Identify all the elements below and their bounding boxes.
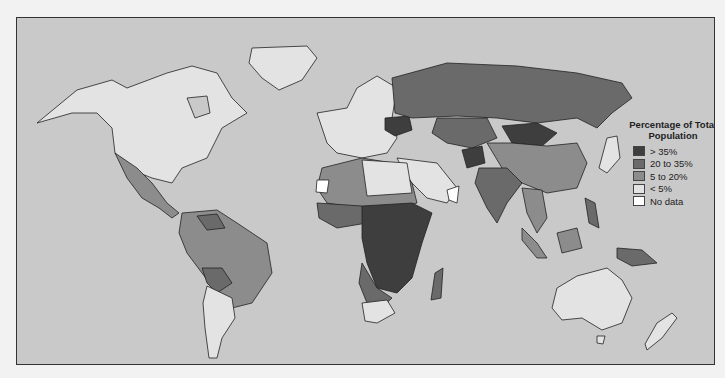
world-map [17,18,715,365]
region-mongolia [502,123,557,146]
region-japan [599,136,620,173]
legend-title-line2: Population [623,130,715,141]
legend-item-20-35: 20 to 35% [633,158,715,171]
region-west-africa [317,203,367,228]
legend-label: < 5% [650,183,672,194]
region-australia [552,268,632,330]
region-indonesia-borneo [557,228,582,253]
legend-label: > 35% [650,146,677,157]
legend-label: 20 to 35% [650,158,693,169]
legend-item-lt5: < 5% [633,183,715,196]
map-legend: Percentage of Total Population > 35% 20 … [623,119,715,208]
legend-item-gt35: > 35% [633,145,715,158]
region-egypt-libya [362,160,412,196]
region-southeast-asia [522,188,547,233]
legend-item-5-20: 5 to 20% [633,170,715,183]
region-russia [392,63,632,128]
legend-title: Percentage of Total Population [623,119,715,141]
region-tasmania [597,336,605,344]
map-frame: Percentage of Total Population > 35% 20 … [16,17,715,365]
legend-label: 5 to 20% [650,171,688,182]
region-sumatra [522,228,547,258]
legend-items: > 35% 20 to 35% 5 to 20% < 5% No data [633,145,715,208]
region-greenland [249,46,317,90]
region-south-africa [362,300,395,323]
region-philippines [585,198,599,228]
legend-title-line1: Percentage of Total [623,119,715,130]
legend-swatch [633,196,645,206]
legend-swatch [633,146,645,156]
region-new-zealand [645,313,677,350]
region-south-america [179,210,272,308]
legend-swatch [633,184,645,194]
region-madagascar [431,268,443,300]
legend-swatch [633,171,645,181]
legend-label: No data [650,196,683,207]
legend-item-no-data: No data [633,195,715,208]
region-europe [317,76,397,158]
region-central-east-africa [362,203,432,293]
region-papua-new-guinea [617,248,657,266]
region-southern-cone [203,286,235,358]
legend-swatch [633,159,645,169]
region-india [475,168,522,223]
region-north-america [37,66,247,183]
region-western-sahara [316,180,329,193]
region-afghanistan [462,146,485,168]
